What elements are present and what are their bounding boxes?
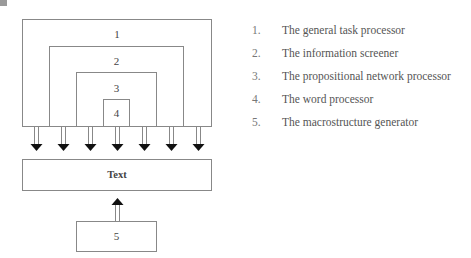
legend-text: The information screener <box>282 47 398 59</box>
down-arrow-icon <box>85 127 97 151</box>
box-5-label: 5 <box>76 230 157 242</box>
down-arrow-icon <box>58 127 70 151</box>
down-arrow-icon <box>193 127 205 151</box>
legend-text: The macrostructure generator <box>282 116 418 128</box>
legend-text: The general task processor <box>282 24 405 36</box>
down-arrow-icon <box>139 127 151 151</box>
legend-number: 5. <box>252 116 274 128</box>
down-arrow-icon <box>112 127 124 151</box>
legend-text: The propositional network processor <box>282 70 451 82</box>
text-box-label: Text <box>22 169 212 181</box>
up-arrow-icon <box>112 198 124 221</box>
legend-text: The word processor <box>282 93 373 105</box>
legend-number: 3. <box>252 70 274 82</box>
legend-number: 1. <box>252 24 274 36</box>
down-arrow-icon <box>166 127 178 151</box>
legend-number: 2. <box>252 47 274 59</box>
down-arrows <box>0 0 471 258</box>
legend-number: 4. <box>252 93 274 105</box>
down-arrow-icon <box>31 127 43 151</box>
